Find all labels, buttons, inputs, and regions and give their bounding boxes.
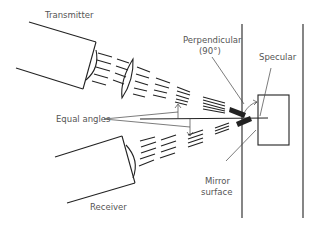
transmitter-label: Transmitter xyxy=(44,10,94,20)
specular-box xyxy=(258,95,289,145)
transmitter-beam xyxy=(92,53,246,118)
equal-angles-label: Equal angles xyxy=(56,114,111,124)
perpendicular-label: Perpendicular xyxy=(183,35,242,45)
mirror-surface-label-line1: Mirror xyxy=(205,176,231,186)
specular-reflection-diagram: Transmitter Perpendicular (90°) Specular… xyxy=(0,0,316,227)
specular-label: Specular xyxy=(259,52,297,62)
mirror-surface-label-line2: surface xyxy=(201,187,232,197)
transmitter xyxy=(16,22,97,89)
transmitter-lens xyxy=(122,59,133,98)
leader-lines xyxy=(104,57,271,161)
perpendicular-angle-label: (90°) xyxy=(199,46,221,56)
receiver xyxy=(55,136,135,203)
receiver-label: Receiver xyxy=(90,202,127,212)
